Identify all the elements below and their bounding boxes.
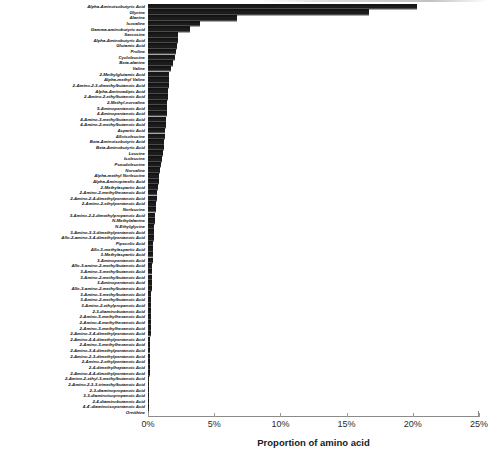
x-tick	[479, 413, 480, 417]
x-axis-title: Proportion of amino acid	[148, 437, 479, 448]
bar-row-label: Ornithine	[0, 410, 148, 416]
x-tick-label: 20%	[404, 419, 422, 429]
x-tick-label: 0%	[141, 419, 154, 429]
x-axis-line	[148, 416, 479, 417]
x-tick	[347, 413, 348, 417]
x-tick	[413, 413, 414, 417]
x-tick	[280, 413, 281, 417]
plot-area: Alpha-Aminoisobutyric AcidGlycineAlanine…	[0, 4, 492, 416]
top-page-artifact	[258, 0, 488, 2]
x-tick-label: 25%	[470, 419, 488, 429]
x-tick-label: 10%	[271, 419, 289, 429]
bar-track	[148, 410, 492, 416]
bar-chart-figure: Alpha-Aminoisobutyric AcidGlycineAlanine…	[0, 0, 492, 461]
x-tick	[214, 413, 215, 417]
x-tick-label: 5%	[208, 419, 221, 429]
bar-row: Ornithine	[0, 410, 492, 416]
x-tick	[148, 413, 149, 417]
bar-rows: Alpha-Aminoisobutyric AcidGlycineAlanine…	[0, 4, 492, 416]
x-tick-label: 15%	[338, 419, 356, 429]
